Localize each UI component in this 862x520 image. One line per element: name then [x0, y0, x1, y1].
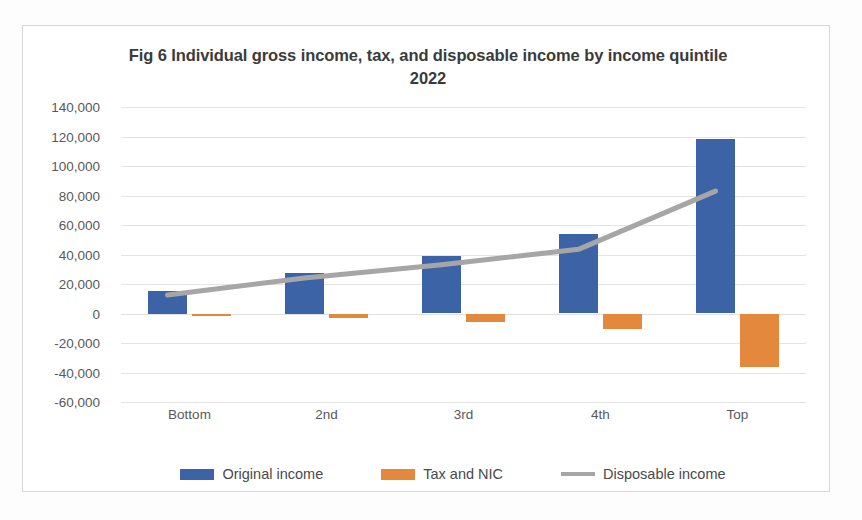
legend-label: Disposable income: [603, 466, 726, 482]
gridline: [121, 373, 806, 374]
legend-item: Original income: [180, 466, 323, 482]
bar-tax-and-nic-bottom: [192, 314, 231, 316]
y-axis-tick-label: 20,000: [10, 277, 100, 292]
gridline: [121, 343, 806, 344]
bar-tax-and-nic-2nd: [329, 314, 368, 318]
chart-frame: Fig 6 Individual gross income, tax, and …: [22, 25, 830, 492]
legend-item: Disposable income: [561, 466, 726, 482]
plot-area: 140,000120,000100,00080,00060,00040,0002…: [121, 107, 806, 402]
bar-original-income-top: [696, 139, 735, 313]
bar-original-income-3rd: [422, 256, 461, 314]
bar-tax-and-nic-top: [740, 314, 779, 367]
y-axis-tick-label: 140,000: [10, 100, 100, 115]
y-axis-tick-label: 120,000: [10, 129, 100, 144]
y-axis-tick-label: 100,000: [10, 159, 100, 174]
legend-label: Original income: [222, 466, 323, 482]
chart-legend: Original incomeTax and NICDisposable inc…: [121, 466, 785, 482]
y-axis-tick-label: -60,000: [10, 395, 100, 410]
y-axis-tick-label: -20,000: [10, 336, 100, 351]
y-axis-tick-label: 40,000: [10, 247, 100, 262]
bar-tax-and-nic-4th: [603, 314, 642, 329]
legend-item: Tax and NIC: [381, 466, 503, 482]
y-axis-tick-label: 0: [10, 306, 100, 321]
bar-tax-and-nic-3rd: [466, 314, 505, 323]
legend-swatch-square: [381, 469, 415, 480]
legend-swatch-square: [180, 469, 214, 480]
x-axis-tick-label: 2nd: [267, 407, 387, 422]
y-axis-tick-label: -40,000: [10, 365, 100, 380]
legend-swatch-line: [561, 472, 595, 476]
gridline: [121, 107, 806, 108]
x-axis-tick-label: Bottom: [130, 407, 250, 422]
chart-title: Fig 6 Individual gross income, tax, and …: [113, 44, 743, 91]
x-axis-tick-label: Top: [678, 407, 798, 422]
x-axis-tick-label: 4th: [541, 407, 661, 422]
gridline: [121, 402, 806, 403]
legend-label: Tax and NIC: [423, 466, 503, 482]
bar-original-income-bottom: [148, 291, 187, 313]
y-axis-tick-label: 80,000: [10, 188, 100, 203]
page-background: Fig 6 Individual gross income, tax, and …: [0, 0, 862, 520]
gridline: [121, 137, 806, 138]
x-axis-tick-label: 3rd: [404, 407, 524, 422]
y-axis-tick-label: 60,000: [10, 218, 100, 233]
bar-original-income-2nd: [285, 273, 324, 314]
bar-original-income-4th: [559, 234, 598, 314]
